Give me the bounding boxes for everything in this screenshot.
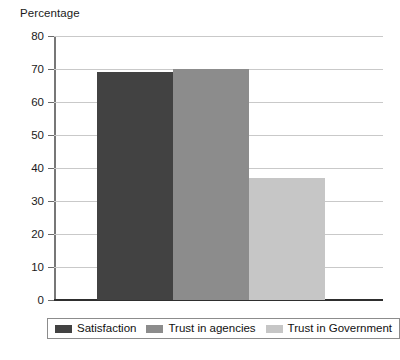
gridline xyxy=(54,36,383,37)
bar xyxy=(97,72,173,300)
legend-item[interactable]: Satisfaction xyxy=(55,323,136,335)
y-axis-tick-label: 80 xyxy=(2,30,44,42)
legend-item-label: Trust in agencies xyxy=(168,323,255,335)
bar-chart: Percentage 01020304050607080 Satisfactio… xyxy=(0,0,400,360)
bar xyxy=(173,69,249,300)
legend-swatch-icon xyxy=(266,325,283,333)
y-axis-tick-label: 20 xyxy=(2,228,44,240)
legend-item-label: Trust in Government xyxy=(288,323,392,335)
y-axis-tick-label: 40 xyxy=(2,162,44,174)
legend-item[interactable]: Trust in Government xyxy=(266,323,392,335)
y-axis-tick-label: 0 xyxy=(2,294,44,306)
y-axis-tick-label: 70 xyxy=(2,63,44,75)
legend-item[interactable]: Trust in agencies xyxy=(146,323,255,335)
plot-area xyxy=(54,36,383,300)
y-axis-tick-label: 50 xyxy=(2,129,44,141)
y-axis-tick-label: 60 xyxy=(2,96,44,108)
legend-swatch-icon xyxy=(146,325,163,333)
bar xyxy=(249,178,325,300)
chart-legend: SatisfactionTrust in agenciesTrust in Go… xyxy=(47,318,400,339)
legend-item-label: Satisfaction xyxy=(77,323,136,335)
legend-swatch-icon xyxy=(55,325,72,333)
y-axis-tick-label: 10 xyxy=(2,261,44,273)
y-axis-tick-label: 30 xyxy=(2,195,44,207)
y-axis-tick-labels: 01020304050607080 xyxy=(0,0,44,360)
